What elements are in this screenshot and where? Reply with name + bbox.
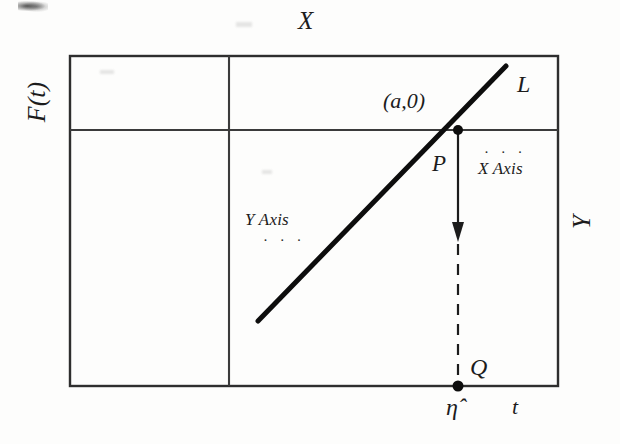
x-axis-note: · · · X Axis	[478, 160, 523, 177]
point-label-P: P	[432, 152, 446, 175]
y-axis-note-text: Y Axis	[245, 210, 289, 229]
bottom-axis-label: t	[512, 396, 518, 418]
top-axis-label: X	[298, 8, 313, 33]
left-axis-label: F(t)	[15, 72, 59, 132]
arrowhead-down	[452, 222, 464, 242]
y-axis-note-dots: · · ·	[263, 233, 306, 248]
point-P-marker	[453, 125, 463, 135]
coordinate-label: (a,0)	[383, 90, 425, 112]
diagram-svg	[0, 0, 620, 444]
x-axis-note-dots: · · ·	[484, 145, 527, 160]
line-L	[258, 66, 506, 321]
figure-canvas: F(t) X (a,0) L P · · · X Axis Y Axis · ·…	[0, 0, 620, 444]
y-axis-note: Y Axis · · ·	[245, 211, 289, 228]
right-axis-label: Y	[563, 199, 599, 245]
x-axis-note-text: X Axis	[478, 159, 523, 178]
point-Q-marker	[453, 381, 464, 392]
frame-rectangle	[70, 56, 558, 386]
point-label-Q: Q	[470, 355, 487, 379]
line-label-L: L	[517, 72, 530, 96]
foot-value-label: η̂	[446, 395, 458, 419]
